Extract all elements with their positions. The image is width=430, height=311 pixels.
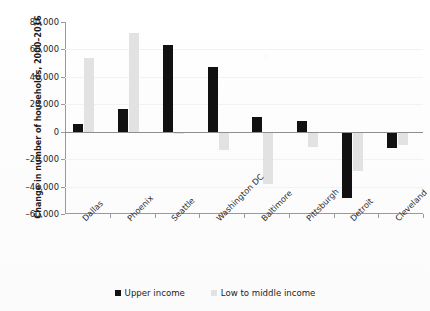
bar: [297, 121, 307, 132]
y-tick-mark: [61, 214, 65, 215]
bar: [387, 132, 397, 148]
gridline: [65, 77, 423, 78]
zero-line: [65, 132, 423, 133]
y-axis-line: [65, 22, 66, 214]
bar: [252, 117, 262, 132]
gridline: [65, 159, 423, 160]
gridline: [65, 49, 423, 50]
bar: [73, 124, 83, 132]
y-tick-label: 0: [54, 127, 59, 137]
bar: [308, 132, 318, 147]
bar: [353, 132, 363, 172]
x-axis-labels: DallasPhoenixSeattleWashington DCBaltimo…: [65, 216, 423, 286]
chart-legend: Upper incomeLow to middle income: [0, 288, 430, 298]
bar: [118, 109, 128, 132]
bar: [342, 132, 352, 198]
gridline: [65, 104, 423, 105]
bar: [219, 132, 229, 150]
y-tick-mark: [61, 22, 65, 23]
bar: [129, 33, 139, 132]
legend-swatch-icon: [115, 290, 121, 296]
bar: [84, 58, 94, 132]
y-axis-title: Change in number of households, 2000–201…: [33, 2, 43, 232]
bar: [263, 132, 273, 184]
legend-item[interactable]: Upper income: [115, 288, 185, 298]
legend-label: Upper income: [125, 288, 185, 298]
x-tick-mark: [423, 214, 424, 218]
bar: [208, 67, 218, 131]
bar: [398, 132, 408, 145]
bar: [163, 45, 173, 132]
legend-item[interactable]: Low to middle income: [211, 288, 316, 298]
bar-chart-figure: Change in number of households, 2000–201…: [0, 0, 430, 311]
legend-swatch-icon: [211, 290, 217, 296]
legend-label: Low to middle income: [221, 288, 316, 298]
